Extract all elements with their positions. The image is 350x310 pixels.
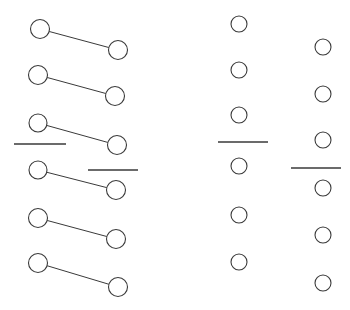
link-layer: [47, 31, 109, 284]
pair-node-right-4: [107, 181, 126, 200]
node-layer: [29, 16, 332, 297]
pair-connector-1: [49, 31, 109, 47]
middle-nodes-6: [231, 254, 247, 270]
pair-node-right-3: [108, 136, 127, 155]
middle-nodes-3: [231, 107, 247, 123]
figure-svg: [0, 0, 350, 310]
right-nodes-5: [315, 227, 331, 243]
pair-node-left-6: [29, 254, 48, 273]
pair-node-left-3: [29, 114, 47, 132]
pair-node-right-1: [109, 41, 128, 60]
bar-segment-layer: [14, 142, 341, 170]
middle-nodes-2: [231, 62, 247, 78]
middle-nodes-1: [231, 16, 247, 32]
middle-nodes-4: [231, 158, 247, 174]
pair-node-left-5: [29, 209, 48, 228]
right-nodes-3: [315, 132, 331, 148]
pair-connector-2: [47, 77, 106, 93]
diagram-canvas: [0, 0, 350, 310]
pair-node-right-6: [109, 278, 128, 297]
right-nodes-1: [315, 39, 331, 55]
pair-node-left-1: [31, 20, 50, 39]
pair-connector-4: [47, 172, 107, 187]
pair-node-left-2: [29, 66, 48, 85]
pair-node-left-4: [29, 161, 47, 179]
middle-nodes-5: [231, 207, 247, 223]
pair-connector-6: [47, 266, 109, 285]
pair-connector-5: [47, 220, 107, 236]
pair-node-right-2: [106, 87, 125, 106]
right-nodes-4: [315, 180, 331, 196]
right-nodes-6: [315, 275, 331, 291]
pair-node-right-5: [107, 230, 126, 249]
pair-connector-3: [47, 125, 108, 142]
right-nodes-2: [315, 86, 331, 102]
